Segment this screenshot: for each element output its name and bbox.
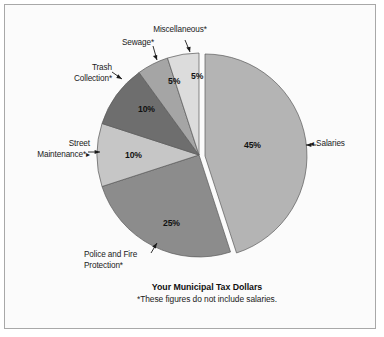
chart-footnote: *These figures do not include salaries. <box>92 294 322 304</box>
callout-label-street-maintenance: Street Maintenance*▸ <box>10 139 90 160</box>
slice-value-sewage: 5% <box>168 76 180 86</box>
pie-chart-screenshot: 45% 25% 10% 10% 5% 5% Miscellaneous* Sew… <box>0 0 384 337</box>
callout-label-sewage: Sewage* <box>88 38 154 49</box>
leader-arrow-trash-collection <box>112 72 122 79</box>
slice-value-trash-collection: 10% <box>138 104 155 114</box>
slice-value-miscellaneous: 5% <box>191 71 203 81</box>
callout-label-salaries: ◂ Salaries <box>310 139 380 150</box>
slice-value-police-and-fire: 25% <box>163 218 180 228</box>
leader-arrow-miscellaneous <box>185 40 191 52</box>
slice-value-salaries: 45% <box>244 140 261 150</box>
chart-title: Your Municipal Tax Dollars <box>92 282 322 292</box>
slice-value-street-maintenance: 10% <box>125 150 142 160</box>
callout-label-police-and-fire: Police and Fire Protection* <box>84 250 174 271</box>
callout-label-trash-collection: Trash Collection* <box>48 63 112 84</box>
title-block: Your Municipal Tax Dollars *These figure… <box>92 282 322 304</box>
chart-area: 45% 25% 10% 10% 5% 5% Miscellaneous* Sew… <box>0 0 384 337</box>
callout-label-miscellaneous: Miscellaneous* <box>128 25 232 36</box>
